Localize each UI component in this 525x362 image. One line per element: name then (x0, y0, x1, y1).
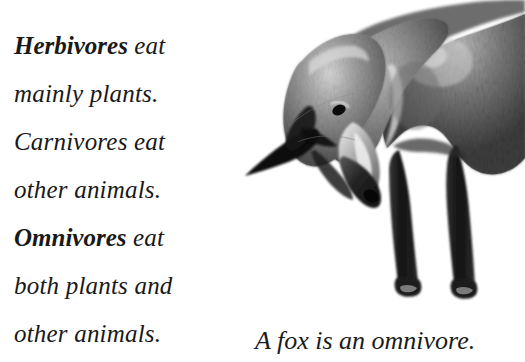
term-omnivores: Omnivores (14, 224, 127, 251)
fox-leg-front-far (446, 146, 475, 295)
fox-photo-image (243, 0, 525, 305)
definitions-text-block: Herbivores eat mainly plants. Carnivores… (14, 22, 239, 358)
fox-head (245, 34, 385, 208)
figure-caption: A fox is an omnivore. (255, 325, 475, 357)
text-line-1-rest: eat (128, 32, 166, 59)
fox-front-legs (389, 139, 477, 299)
fox-leg-front-near (389, 150, 419, 293)
text-line-2: mainly plants. (14, 70, 239, 118)
text-line-7: other animals. (14, 310, 239, 358)
worksheet-page: Herbivores eat mainly plants. Carnivores… (0, 0, 525, 362)
term-herbivores: Herbivores (14, 32, 128, 59)
text-line-1: Herbivores eat (14, 22, 239, 70)
text-line-4: other animals. (14, 166, 239, 214)
text-line-3: Carnivores eat (14, 118, 239, 166)
text-line-6: both plants and (14, 262, 239, 310)
text-line-5: Omnivores eat (14, 214, 239, 262)
text-line-5-rest: eat (127, 224, 165, 251)
